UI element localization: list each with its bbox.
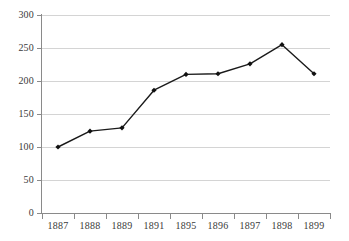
x-axis-tick bbox=[234, 214, 235, 219]
series-markers bbox=[55, 42, 316, 150]
y-axis-tick bbox=[37, 180, 42, 181]
x-axis-tick bbox=[106, 214, 107, 219]
line-chart-figure: 050100150200250300 188718881889189118951… bbox=[0, 0, 349, 241]
x-axis-tick bbox=[266, 214, 267, 219]
data-point-marker bbox=[183, 72, 188, 77]
x-axis-tick bbox=[330, 214, 331, 219]
x-axis-tick bbox=[42, 214, 43, 219]
y-axis-tick bbox=[37, 15, 42, 16]
x-axis-tick bbox=[202, 214, 203, 219]
series-line bbox=[58, 45, 314, 147]
y-axis-tick bbox=[37, 81, 42, 82]
y-axis-tick bbox=[37, 48, 42, 49]
data-point-marker bbox=[87, 129, 92, 134]
x-axis-tick bbox=[298, 214, 299, 219]
x-axis-tick bbox=[74, 214, 75, 219]
data-point-marker bbox=[215, 71, 220, 76]
y-axis-tick bbox=[37, 114, 42, 115]
x-axis-tick bbox=[138, 214, 139, 219]
y-axis-tick bbox=[37, 147, 42, 148]
data-series bbox=[0, 0, 349, 241]
x-axis-tick bbox=[170, 214, 171, 219]
data-point-marker bbox=[55, 144, 60, 149]
